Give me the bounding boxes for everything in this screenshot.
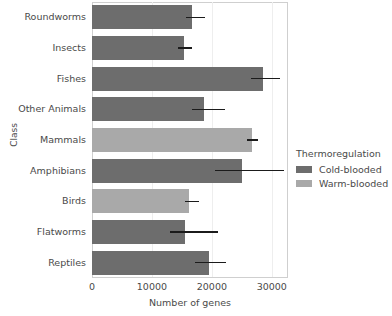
legend-entries: Cold-bloodedWarm-blooded: [296, 164, 390, 189]
y-tick-birds: Birds: [0, 195, 86, 206]
error-bar-roundworms: [186, 17, 205, 19]
bar-insects[interactable]: [92, 36, 184, 60]
legend-swatch-warm-blooded: [296, 180, 312, 187]
legend-swatch-cold-blooded: [296, 166, 312, 173]
legend: Thermoregulation Cold-bloodedWarm-bloode…: [296, 148, 390, 192]
legend-entry[interactable]: Warm-blooded: [296, 178, 390, 189]
error-bar-mammals: [247, 139, 258, 141]
bar-other-animals[interactable]: [92, 97, 204, 121]
error-bar-flatworms: [170, 231, 218, 233]
y-tick-mammals: Mammals: [0, 134, 86, 145]
error-bar-other-animals: [192, 109, 225, 111]
y-tick-insects: Insects: [0, 42, 86, 53]
bar-row: [92, 220, 288, 244]
plot-area: [92, 2, 288, 278]
legend-label: Warm-blooded: [319, 178, 388, 189]
error-bar-fishes: [251, 78, 280, 80]
x-tick-20000: 20000: [182, 281, 242, 292]
y-tick-fishes: Fishes: [0, 73, 86, 84]
legend-title: Thermoregulation: [296, 148, 390, 159]
legend-entry[interactable]: Cold-blooded: [296, 164, 390, 175]
bar-row: [92, 159, 288, 183]
bar-row: [92, 251, 288, 275]
error-bar-insects: [178, 47, 192, 49]
axis-spine-bottom: [92, 277, 288, 278]
y-tick-roundworms: Roundworms: [0, 11, 86, 22]
bar-chart-figure: Class RoundwormsInsectsFishesOther Anima…: [0, 0, 392, 316]
x-tick-0: 0: [62, 281, 122, 292]
bar-fishes[interactable]: [92, 67, 263, 91]
bar-roundworms[interactable]: [92, 5, 192, 29]
x-tick-30000: 30000: [242, 281, 302, 292]
axis-spine-top: [92, 2, 288, 3]
bar-row: [92, 5, 288, 29]
bar-row: [92, 67, 288, 91]
x-axis-label: Number of genes: [92, 297, 288, 308]
error-bar-birds: [185, 201, 199, 203]
x-tick-10000: 10000: [122, 281, 182, 292]
error-bar-amphibians: [215, 170, 284, 172]
y-tick-other-animals: Other Animals: [0, 103, 86, 114]
error-bar-reptiles: [195, 262, 226, 264]
bar-birds[interactable]: [92, 189, 189, 213]
y-tick-flatworms: Flatworms: [0, 226, 86, 237]
bar-row: [92, 97, 288, 121]
y-tick-amphibians: Amphibians: [0, 165, 86, 176]
bar-row: [92, 128, 288, 152]
bar-row: [92, 189, 288, 213]
bar-row: [92, 36, 288, 60]
bar-mammals[interactable]: [92, 128, 252, 152]
legend-label: Cold-blooded: [319, 164, 382, 175]
y-tick-reptiles: Reptiles: [0, 257, 86, 268]
bar-reptiles[interactable]: [92, 251, 209, 275]
